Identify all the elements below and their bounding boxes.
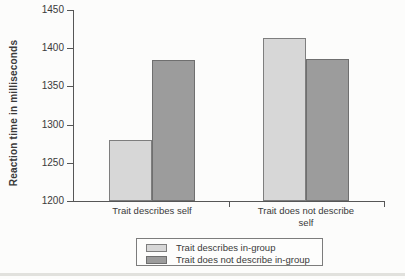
y-tick	[67, 125, 73, 126]
category-label-0: Trait describes self	[97, 205, 207, 217]
y-tick-label: 1400	[36, 43, 64, 53]
y-tick	[67, 201, 73, 202]
y-tick-label: 1200	[36, 196, 64, 206]
legend-item: Trait does not describe in-group	[146, 254, 322, 265]
legend: Trait describes in-groupTrait does not d…	[136, 238, 323, 266]
y-tick	[67, 163, 73, 164]
legend-swatch	[146, 244, 167, 252]
legend-label: Trait does not describe in-group	[176, 255, 310, 265]
legend-label: Trait describes in-group	[176, 243, 275, 253]
y-tick	[67, 10, 73, 11]
y-tick-label: 1250	[36, 158, 64, 168]
bar-ingroup-1	[263, 38, 306, 201]
category-label-1: Trait does not describe self	[251, 205, 361, 228]
y-tick-label: 1300	[36, 120, 64, 130]
y-axis-line	[73, 10, 74, 202]
legend-swatch	[146, 256, 167, 264]
bar-ingroup-0	[109, 140, 152, 201]
chart-figure: Reaction time in milliseconds 1450140013…	[0, 0, 405, 279]
y-tick	[67, 48, 73, 49]
y-tick-label: 1450	[36, 5, 64, 15]
y-tick-label: 1350	[36, 81, 64, 91]
y-tick	[67, 86, 73, 87]
bar-not-ingroup-1	[306, 59, 349, 201]
x-tick	[229, 202, 230, 207]
legend-item: Trait describes in-group	[146, 242, 322, 253]
page-edge-line	[0, 273, 405, 276]
x-tick	[384, 202, 385, 207]
bar-not-ingroup-0	[152, 60, 195, 201]
